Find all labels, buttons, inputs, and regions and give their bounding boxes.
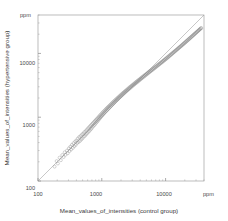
x-tick-label-10000: 10000	[156, 191, 172, 197]
y-tick-label-10000: 10000	[19, 60, 35, 66]
y-tick-label-1000: 1000	[23, 122, 35, 128]
plot-canvas: ppm ppm 100 1000 10000 100 1000 10000 Me…	[0, 0, 228, 221]
scatter-plot-figure: ppm ppm 100 1000 10000 100 1000 10000 Me…	[0, 0, 228, 221]
x-tick-label-100: 100	[33, 191, 42, 197]
y-axis-unit-label: ppm	[20, 12, 31, 18]
x-axis-title: Mean_values_of_intensities (control grou…	[60, 207, 178, 214]
y-axis-title: Mean_values_of_intensities (hypertensive…	[3, 31, 10, 166]
x-axis-unit-label: ppm	[203, 191, 214, 197]
x-tick-label-1000: 1000	[90, 191, 102, 197]
data-points	[53, 27, 203, 169]
